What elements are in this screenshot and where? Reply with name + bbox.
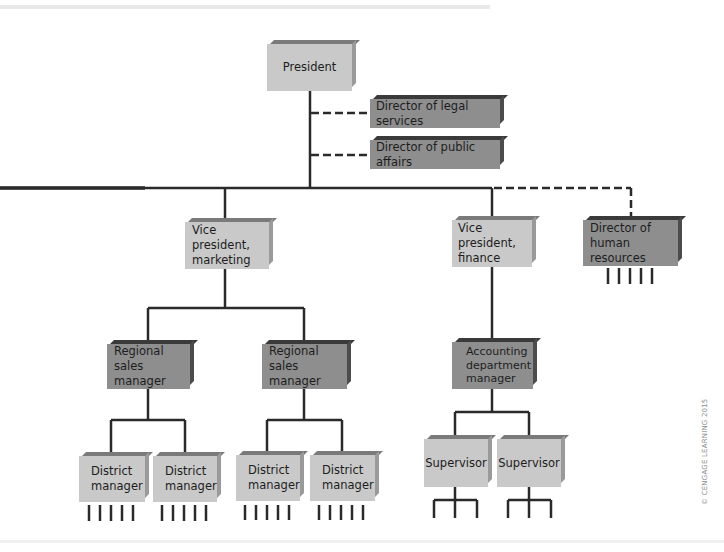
node-label: District manager	[91, 464, 143, 494]
node-label: Regional sales manager	[114, 344, 190, 389]
node-district-manager-2: District manager	[153, 456, 217, 502]
node-label: Vice president, finance	[458, 221, 532, 266]
node-director-public-affairs: Director of public affairs	[370, 140, 500, 169]
node-label: Supervisor	[424, 456, 488, 471]
node-label: District manager	[248, 463, 300, 493]
node-supervisor-1: Supervisor	[424, 439, 488, 487]
node-accounting-department-manager: Accounting department manager	[452, 342, 533, 389]
node-regional-sales-manager-1: Regional sales manager	[107, 344, 190, 389]
node-vp-marketing: Vice president, marketing	[185, 222, 269, 269]
node-vp-finance: Vice president, finance	[452, 220, 532, 267]
node-label: District manager	[322, 463, 374, 493]
node-president: President	[267, 44, 352, 91]
node-label: Accounting department manager	[466, 345, 531, 386]
copyright-credit: © CENGAGE LEARNING 2015	[701, 398, 709, 505]
node-district-manager-1: District manager	[79, 456, 145, 502]
node-director-legal-services: Director of legal services	[370, 99, 500, 128]
node-label: Regional sales manager	[269, 344, 347, 389]
node-label: Director of public affairs	[376, 140, 500, 170]
node-label: Supervisor	[497, 456, 561, 471]
node-label: Vice president, marketing	[192, 223, 269, 268]
node-regional-sales-manager-2: Regional sales manager	[262, 344, 347, 389]
node-label: President	[267, 60, 352, 75]
node-label: Director of legal services	[376, 99, 500, 129]
node-label: Director of human resources	[590, 221, 678, 266]
node-label: District manager	[165, 464, 217, 494]
node-district-manager-3: District manager	[236, 455, 300, 501]
node-district-manager-4: District manager	[310, 455, 375, 501]
org-chart: President Director of legal services Dir…	[0, 0, 724, 552]
bottom-rule	[0, 540, 724, 543]
node-director-human-resources: Director of human resources	[583, 220, 678, 266]
node-supervisor-2: Supervisor	[497, 439, 561, 487]
